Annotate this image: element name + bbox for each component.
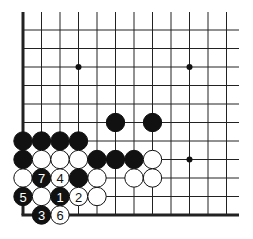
black-stone bbox=[143, 113, 161, 131]
black-stone bbox=[69, 132, 87, 150]
star-point bbox=[76, 64, 82, 70]
white-stone bbox=[51, 150, 69, 168]
black-stone bbox=[106, 150, 124, 168]
white-stone bbox=[69, 150, 87, 168]
black-stone: 5 bbox=[14, 187, 32, 205]
star-point bbox=[187, 157, 193, 163]
star-point bbox=[187, 64, 193, 70]
move-number: 5 bbox=[19, 190, 26, 205]
black-stone: 7 bbox=[32, 169, 50, 187]
black-stone bbox=[32, 132, 50, 150]
white-stone bbox=[143, 150, 161, 168]
black-stone bbox=[88, 150, 106, 168]
move-number: 6 bbox=[56, 208, 63, 223]
go-board: 7451236 bbox=[0, 0, 253, 239]
stones: 7451236 bbox=[14, 113, 162, 224]
black-stone: 1 bbox=[51, 187, 69, 205]
move-number: 7 bbox=[38, 171, 45, 186]
move-number: 4 bbox=[56, 171, 63, 186]
white-stone: 2 bbox=[69, 187, 87, 205]
white-stone bbox=[143, 169, 161, 187]
black-stone: 3 bbox=[32, 206, 50, 224]
black-stone bbox=[51, 132, 69, 150]
black-stone bbox=[125, 150, 143, 168]
white-stone bbox=[32, 187, 50, 205]
white-stone bbox=[125, 169, 143, 187]
move-number: 2 bbox=[75, 190, 82, 205]
white-stone: 6 bbox=[51, 206, 69, 224]
white-stone: 4 bbox=[51, 169, 69, 187]
black-stone bbox=[69, 169, 87, 187]
white-stone bbox=[88, 187, 106, 205]
black-stone bbox=[14, 150, 32, 168]
black-stone bbox=[14, 132, 32, 150]
white-stone bbox=[14, 169, 32, 187]
move-number: 1 bbox=[56, 190, 63, 205]
black-stone bbox=[106, 113, 124, 131]
move-number: 3 bbox=[38, 208, 45, 223]
white-stone bbox=[88, 169, 106, 187]
white-stone bbox=[32, 150, 50, 168]
